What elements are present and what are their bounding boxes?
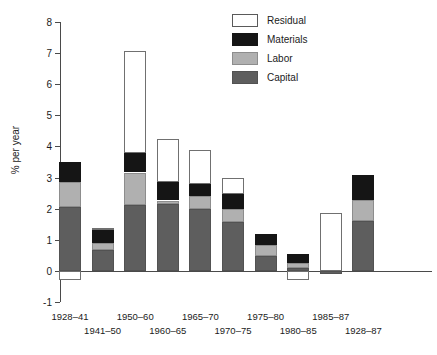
legend: ResidualMaterialsLaborCapital — [232, 12, 308, 88]
segment-labor-1965-70 — [189, 196, 211, 208]
segment-capital-1975-80 — [255, 256, 277, 272]
segment-residual-1941-50 — [92, 228, 114, 230]
segment-labor-1975-80 — [255, 245, 277, 255]
segment-materials-1941-50 — [92, 230, 114, 243]
legend-item-materials: Materials — [232, 31, 308, 48]
x-label-1941-50: 1941–50 — [84, 325, 121, 336]
segment-materials-1928-41 — [59, 162, 81, 182]
segment-labor-1980-85 — [287, 263, 309, 268]
legend-label-materials: Materials — [267, 33, 308, 46]
segment-materials-1975-80 — [255, 234, 277, 246]
segment-labor-1941-50 — [92, 243, 114, 250]
segment-labor-1960-65 — [157, 201, 179, 205]
segment-materials-1965-70 — [189, 184, 211, 196]
legend-swatch-residual-icon — [232, 14, 258, 27]
segment-residual-1965-70 — [189, 150, 211, 184]
legend-item-residual: Residual — [232, 12, 308, 29]
x-label-1975-80: 1975–80 — [247, 311, 284, 322]
x-axis-line — [60, 271, 432, 272]
segment-capital-1970-75 — [222, 222, 244, 271]
legend-item-capital: Capital — [232, 69, 308, 86]
segment-capital-1965-70 — [189, 209, 211, 271]
legend-swatch-capital-icon — [232, 71, 258, 84]
x-label-1965-70: 1965–70 — [182, 311, 219, 322]
legend-label-capital: Capital — [267, 71, 298, 84]
segment-materials-1970-75 — [222, 194, 244, 209]
x-label-1928-87: 1928–87 — [345, 325, 382, 336]
segment-capital-1985-87 — [320, 271, 342, 274]
x-label-1980-85: 1980–85 — [280, 325, 317, 336]
segment-materials-1950-60 — [124, 153, 146, 173]
x-label-1950-60: 1950–60 — [117, 311, 154, 322]
x-label-1928-41: 1928–41 — [52, 311, 89, 322]
x-label-1960-65: 1960–65 — [149, 325, 186, 336]
segment-labor-1970-75 — [222, 209, 244, 222]
segment-residual-1928-41 — [59, 271, 81, 280]
segment-residual-1950-60 — [124, 51, 146, 153]
legend-swatch-materials-icon — [232, 33, 258, 46]
legend-item-labor: Labor — [232, 50, 308, 67]
x-label-1985-87: 1985–87 — [312, 311, 349, 322]
y-axis-title: % per year — [10, 105, 21, 195]
segment-labor-1928-41 — [59, 182, 81, 207]
segment-labor-1928-87 — [352, 200, 374, 222]
segment-residual-1970-75 — [222, 178, 244, 194]
segment-residual-1960-65 — [157, 139, 179, 183]
legend-label-labor: Labor — [267, 52, 293, 65]
segment-capital-1928-87 — [352, 221, 374, 271]
segment-capital-1950-60 — [124, 205, 146, 271]
legend-swatch-labor-icon — [232, 52, 258, 65]
segment-residual-1985-87 — [320, 213, 342, 271]
segment-capital-1928-41 — [59, 207, 81, 271]
segment-capital-1941-50 — [92, 250, 114, 271]
segment-labor-1950-60 — [124, 173, 146, 205]
segment-materials-1960-65 — [157, 182, 179, 200]
legend-label-residual: Residual — [267, 14, 306, 27]
segment-capital-1960-65 — [157, 204, 179, 271]
segment-materials-1928-87 — [352, 175, 374, 200]
stacked-bar-chart: 8 7 6 5 4 3 2 1 0 -1 % per year 1928–411… — [0, 0, 437, 355]
x-label-1970-75: 1970–75 — [215, 325, 252, 336]
segment-materials-1980-85 — [287, 254, 309, 263]
segment-residual-1980-85 — [287, 271, 309, 280]
